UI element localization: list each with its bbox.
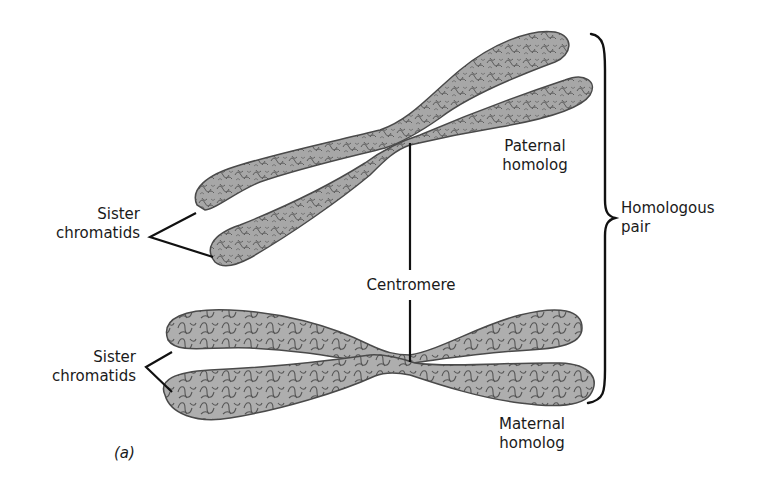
paternal-homolog-line1: Paternal [490,137,580,156]
homologous-pair-line2: pair [621,218,715,237]
sister-chromatids-top-label: Sister chromatids [40,205,140,243]
homologous-chromosome-diagram [0,0,770,496]
paternal-homolog-label: Paternal homolog [490,137,580,175]
sister-chromatids-top-line1: Sister [40,205,140,224]
sister-chromatids-bottom-label: Sister chromatids [36,348,136,386]
maternal-homolog-line1: Maternal [487,415,577,434]
centromere-text: Centromere [355,276,467,295]
panel-label-text: (a) [114,444,135,463]
maternal-homolog-label: Maternal homolog [487,415,577,453]
sister-chromatids-bottom-line1: Sister [36,348,136,367]
homologous-pair-label: Homologous pair [621,199,715,237]
paternal-homolog-line2: homolog [490,156,580,175]
panel-label: (a) [114,444,135,463]
sister-chromatids-top-line2: chromatids [40,224,140,243]
centromere-label: Centromere [355,276,467,295]
sister-chromatids-bottom-line2: chromatids [36,367,136,386]
homologous-pair-line1: Homologous [621,199,715,218]
maternal-homolog-line2: homolog [487,434,577,453]
sister-chromatids-top-leader [150,213,213,257]
maternal-chromosome [163,310,594,420]
maternal-chromatid-2 [163,355,594,420]
